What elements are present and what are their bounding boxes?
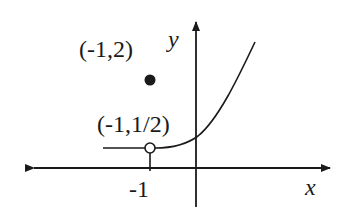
piecewise-function-graph: (-1,2) y (-1,1/2) -1 x: [0, 0, 352, 217]
y-axis-label: y: [166, 26, 179, 52]
filled-point-dot-icon: [145, 75, 156, 86]
x-tick-label: -1: [129, 176, 149, 202]
open-point-circle-icon: [145, 143, 155, 153]
function-curve: [155, 42, 255, 148]
filled-point-label: (-1,2): [79, 36, 133, 62]
open-point-label: (-1,1/2): [97, 111, 170, 137]
x-axis-label: x: [304, 174, 316, 200]
